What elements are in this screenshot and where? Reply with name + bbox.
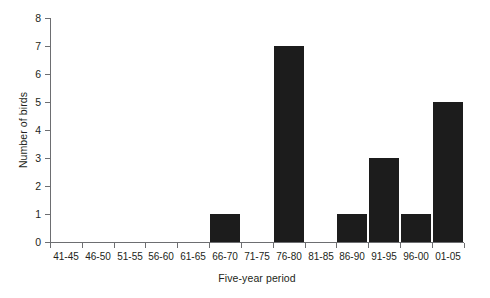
y-tick-label-5: 5	[25, 97, 41, 108]
y-tick-label-6: 6	[25, 69, 41, 80]
y-tick-mark-8	[45, 18, 50, 19]
y-tick-mark-1	[45, 214, 50, 215]
x-tick-mark-10	[368, 243, 369, 248]
x-tick-mark-12	[432, 243, 433, 248]
y-tick-label-7: 7	[25, 41, 41, 52]
y-tick-label-2: 2	[25, 181, 41, 192]
y-tick-label-8: 8	[25, 13, 41, 24]
bar-66-70	[210, 214, 240, 242]
bar-91-95	[369, 158, 399, 242]
x-axis-line	[50, 242, 464, 243]
y-tick-mark-5	[45, 102, 50, 103]
x-tick-mark-6	[241, 243, 242, 248]
x-tick-mark-1	[82, 243, 83, 248]
x-tick-mark-13	[464, 243, 465, 248]
x-tick-mark-3	[145, 243, 146, 248]
x-tick-mark-11	[400, 243, 401, 248]
x-tick-mark-9	[336, 243, 337, 248]
y-tick-label-3: 3	[25, 153, 41, 164]
y-tick-mark-3	[45, 158, 50, 159]
bar-chart: Number of birds 8 7 6 5 4 3 2 1 0 41-45 …	[0, 0, 490, 298]
x-axis-label: Five-year period	[50, 272, 464, 284]
x-tick-label-01-05: 01-05	[428, 252, 468, 262]
x-tick-mark-0	[50, 243, 51, 248]
y-tick-mark-6	[45, 74, 50, 75]
bar-86-90	[337, 214, 367, 242]
x-tick-mark-7	[273, 243, 274, 248]
y-axis-line	[50, 18, 51, 243]
bar-76-80	[274, 46, 304, 242]
y-tick-label-4: 4	[25, 125, 41, 136]
x-tick-mark-2	[114, 243, 115, 248]
x-tick-mark-8	[305, 243, 306, 248]
y-tick-mark-7	[45, 46, 50, 47]
x-tick-mark-4	[177, 243, 178, 248]
y-tick-mark-2	[45, 186, 50, 187]
bar-96-00	[401, 214, 431, 242]
y-tick-mark-4	[45, 130, 50, 131]
y-tick-label-0: 0	[25, 237, 41, 248]
bar-01-05	[433, 102, 463, 242]
x-tick-mark-5	[209, 243, 210, 248]
y-tick-label-1: 1	[25, 209, 41, 220]
